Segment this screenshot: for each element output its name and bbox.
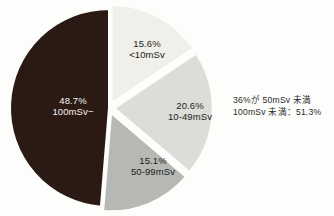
annotation-line-1: 36%が 50mSv 未満 bbox=[233, 94, 334, 106]
pie-label-100msv-range: 100mSv− bbox=[33, 106, 113, 117]
pie-label-under10msv-range: <10mSv bbox=[108, 49, 186, 60]
pie-label-50-99msv: 15.1% 50-99mSv bbox=[110, 155, 196, 177]
summary-annotation: 36%が 50mSv 未満 100mSv 未満：51.3% bbox=[233, 94, 334, 119]
pie-label-10-49msv-range: 10-49mSv bbox=[150, 111, 230, 122]
pie-label-10-49msv: 20.6% 10-49mSv bbox=[150, 100, 230, 122]
pie-label-50-99msv-percent: 15.1% bbox=[110, 155, 196, 166]
pie-label-50-99msv-range: 50-99mSv bbox=[110, 166, 196, 177]
pie-label-100msv-percent: 48.7% bbox=[33, 95, 113, 106]
pie-chart-figure: 48.7% 100mSv− 15.6% <10mSv 20.6% 10-49mS… bbox=[0, 0, 334, 216]
annotation-line-2: 100mSv 未満：51.3% bbox=[233, 106, 334, 118]
pie-label-100msv: 48.7% 100mSv− bbox=[33, 95, 113, 117]
pie-label-under10msv-percent: 15.6% bbox=[108, 38, 186, 49]
pie-label-10-49msv-percent: 20.6% bbox=[150, 100, 230, 111]
pie-label-under10msv: 15.6% <10mSv bbox=[108, 38, 186, 60]
